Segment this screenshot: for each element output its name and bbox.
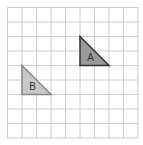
triangle-b-label: B: [29, 81, 36, 92]
triangle-a-label: A: [87, 52, 94, 63]
grid-diagram: AB: [0, 0, 143, 145]
